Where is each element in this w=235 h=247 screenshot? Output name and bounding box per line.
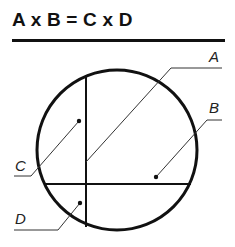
circle — [37, 70, 197, 230]
dot-c — [77, 119, 81, 123]
leader-b — [156, 120, 222, 177]
dot-b — [154, 175, 158, 179]
dot-d — [78, 201, 82, 205]
chord-diagram: A B C D — [0, 0, 235, 247]
leader-a — [86, 68, 222, 162]
label-b: B — [209, 99, 219, 116]
label-d: D — [15, 210, 26, 227]
label-c: C — [15, 157, 26, 174]
label-a: A — [208, 48, 219, 65]
